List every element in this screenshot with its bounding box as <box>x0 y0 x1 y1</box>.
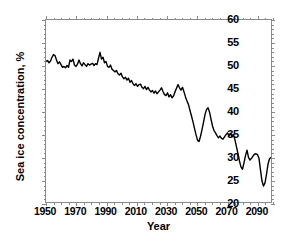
y-tick-mark <box>44 84 47 85</box>
x-tick-mark-top <box>61 18 62 21</box>
y-tick-mark-right <box>271 121 274 122</box>
y-tick-mark-right <box>271 149 274 150</box>
y-tick-mark <box>42 43 46 44</box>
y-tick-mark <box>44 126 47 127</box>
y-tick-mark <box>44 38 47 39</box>
y-tick-mark <box>42 89 46 90</box>
x-tick-mark <box>243 202 244 205</box>
y-tick-mark-right <box>271 107 274 108</box>
y-tick-label: 25 <box>199 175 239 186</box>
y-tick-mark-right <box>271 163 274 164</box>
x-tick-mark-top <box>84 18 85 21</box>
y-tick-mark-right <box>271 158 275 159</box>
x-tick-mark <box>61 202 62 205</box>
y-tick-mark <box>44 153 47 154</box>
y-tick-mark-right <box>271 94 274 95</box>
y-tick-mark-right <box>271 84 274 85</box>
y-tick-mark <box>44 176 47 177</box>
y-tick-mark-right <box>271 126 274 127</box>
y-tick-mark <box>42 20 46 21</box>
x-tick-mark-top <box>107 16 108 20</box>
y-tick-mark <box>42 181 46 182</box>
x-tick-mark-top <box>152 18 153 21</box>
y-tick-mark-right <box>271 199 274 200</box>
x-tick-mark-top <box>114 18 115 21</box>
x-tick-mark <box>122 202 123 205</box>
x-tick-mark <box>273 202 274 205</box>
y-tick-mark-right <box>271 190 274 191</box>
y-tick-mark <box>42 135 46 136</box>
y-tick-mark-right <box>271 176 274 177</box>
y-tick-mark-right <box>271 167 274 168</box>
x-tick-mark-top <box>137 16 138 20</box>
y-tick-mark <box>44 172 47 173</box>
x-tick-mark-top <box>258 16 259 20</box>
y-tick-mark <box>44 25 47 26</box>
y-tick-mark-right <box>271 61 274 62</box>
y-tick-mark <box>44 52 47 53</box>
y-tick-mark-right <box>271 98 274 99</box>
y-tick-mark <box>44 149 47 150</box>
x-tick-mark-top <box>167 16 168 20</box>
y-tick-mark <box>44 186 47 187</box>
x-tick-mark-top <box>190 18 191 21</box>
x-tick-mark <box>152 202 153 205</box>
y-tick-mark <box>44 130 47 131</box>
y-tick-mark <box>44 103 47 104</box>
x-tick-mark-top <box>91 18 92 21</box>
y-tick-mark <box>42 158 46 159</box>
y-tick-mark <box>44 94 47 95</box>
x-tick-mark-top <box>243 18 244 21</box>
y-tick-mark-right <box>271 112 275 113</box>
y-tick-label: 60 <box>199 14 239 25</box>
x-tick-mark-top <box>46 16 47 20</box>
y-tick-mark-right <box>271 48 274 49</box>
y-tick-mark <box>44 98 47 99</box>
y-tick-mark-right <box>271 135 275 136</box>
x-tick-mark-top <box>273 18 274 21</box>
y-axis-title: Sea ice concentration, % <box>15 17 26 217</box>
y-tick-mark-right <box>271 38 274 39</box>
y-tick-mark <box>44 117 47 118</box>
y-tick-mark <box>44 163 47 164</box>
y-tick-mark <box>44 71 47 72</box>
y-tick-mark <box>44 29 47 30</box>
y-tick-mark <box>44 140 47 141</box>
x-tick-mark-top <box>265 18 266 21</box>
y-tick-mark <box>44 75 47 76</box>
y-tick-mark <box>44 199 47 200</box>
y-tick-label: 40 <box>199 106 239 117</box>
y-tick-mark-right <box>271 71 274 72</box>
y-tick-mark <box>44 121 47 122</box>
x-tick-mark-top <box>54 18 55 21</box>
y-tick-label: 30 <box>199 152 239 163</box>
y-tick-label: 55 <box>199 37 239 48</box>
x-tick-mark-top <box>250 18 251 21</box>
y-tick-mark-right <box>271 140 274 141</box>
y-tick-mark-right <box>271 29 274 30</box>
y-tick-mark-right <box>271 66 275 67</box>
y-tick-label: 50 <box>199 60 239 71</box>
y-tick-mark-right <box>271 103 274 104</box>
y-tick-mark <box>44 34 47 35</box>
y-tick-mark <box>44 195 47 196</box>
x-tick-mark <box>182 202 183 205</box>
y-tick-label: 45 <box>199 83 239 94</box>
y-tick-mark <box>42 66 46 67</box>
x-tick-mark-top <box>175 18 176 21</box>
y-tick-mark <box>44 61 47 62</box>
y-tick-mark-right <box>271 52 274 53</box>
x-tick-mark-top <box>122 18 123 21</box>
y-tick-mark-right <box>271 80 274 81</box>
y-tick-mark <box>44 57 47 58</box>
y-tick-mark <box>44 48 47 49</box>
y-tick-mark <box>44 107 47 108</box>
y-tick-mark-right <box>271 57 274 58</box>
y-tick-mark-right <box>271 181 275 182</box>
y-tick-mark-right <box>271 75 274 76</box>
y-tick-mark-right <box>271 153 274 154</box>
x-tick-mark-top <box>69 18 70 21</box>
y-tick-label: 35 <box>199 129 239 140</box>
y-tick-mark-right <box>271 130 274 131</box>
y-tick-mark-right <box>271 186 274 187</box>
